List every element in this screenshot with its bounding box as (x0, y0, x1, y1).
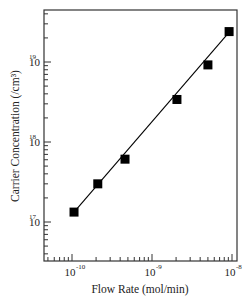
x-tick-exponent: -9 (156, 263, 162, 271)
y-axis-label: Carrier Concentration (/cm³) (9, 70, 22, 202)
y-axis-ticks (44, 14, 51, 254)
chart-container: 101710181019 10-1010-910-8 Flow Rate (mo… (0, 0, 251, 308)
data-point-marker (70, 208, 79, 217)
x-tick-exponent: -8 (236, 263, 242, 271)
x-axis-ticks (48, 254, 232, 261)
x-axis-label: Flow Rate (mol/min) (91, 283, 188, 296)
data-point-marker (121, 155, 130, 164)
x-tick-labels: 10-1010-910-8 (65, 263, 243, 278)
data-point-marker (225, 27, 234, 36)
y-tick-exponent: 19 (29, 53, 37, 61)
x-tick-label: 10 (225, 266, 237, 278)
log-log-scatter-plot: 101710181019 10-1010-910-8 Flow Rate (mo… (0, 0, 251, 308)
y-tick-exponent: 17 (29, 213, 37, 221)
y-tick-labels: 101710181019 (29, 53, 41, 228)
data-point-marker (203, 60, 212, 69)
x-tick-label: 10 (65, 266, 77, 278)
x-tick-label: 10 (145, 266, 157, 278)
y-tick-exponent: 18 (29, 133, 37, 141)
x-tick-exponent: -10 (76, 263, 86, 271)
data-point-marker (172, 95, 181, 104)
data-point-marker (93, 179, 102, 188)
